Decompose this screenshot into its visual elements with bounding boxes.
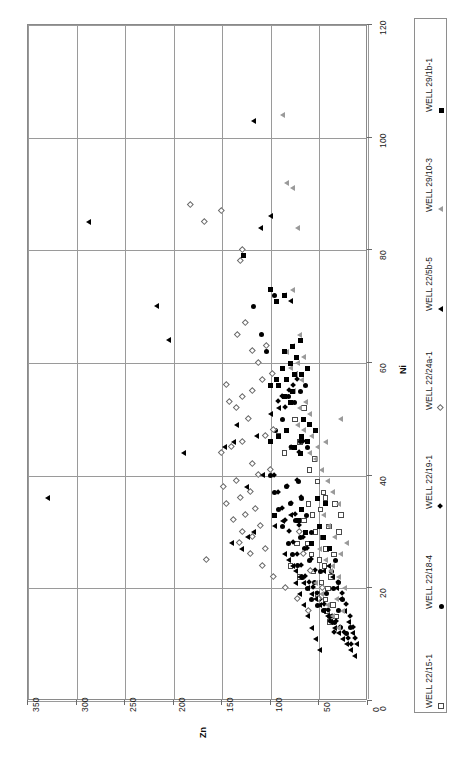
marker-filled-square xyxy=(282,349,287,354)
marker-filled-square xyxy=(299,372,304,377)
zn-tick-label: 300 xyxy=(80,697,90,712)
legend-label: WELL 22/18-4 xyxy=(424,555,434,609)
marker-filled-square xyxy=(288,361,293,366)
plot-area xyxy=(27,24,367,700)
ni-tick-label: 80 xyxy=(378,250,388,260)
ni-tick-label: 20 xyxy=(378,588,388,598)
marker-filled-square xyxy=(282,293,287,298)
zn-tick-label: 200 xyxy=(177,697,187,712)
legend-marker-open-triangle xyxy=(437,206,446,215)
legend-label: WELL 29/10-3 xyxy=(424,158,434,212)
marker-filled-square xyxy=(315,496,320,501)
marker-filled-square xyxy=(284,377,289,382)
marker-filled-square xyxy=(305,439,310,444)
marker-filled-square xyxy=(299,434,304,439)
marker-filled-square xyxy=(323,501,328,506)
ni-axis-title: Ni xyxy=(398,365,408,374)
legend-label: WELL 22/15-1 xyxy=(424,654,434,708)
zn-tick xyxy=(27,700,28,705)
ni-tick-label: 120 xyxy=(378,20,388,35)
scatter-chart: 350300250200150100500020406080100120 Zn … xyxy=(0,0,460,772)
marker-filled-square xyxy=(268,287,273,292)
zn-tick xyxy=(318,700,319,705)
legend-item-well-22-15-1[interactable]: WELL 22/15-1 xyxy=(415,615,448,714)
marker-open-diamond xyxy=(437,404,443,410)
marker-filled-square xyxy=(274,377,279,382)
marker-filled-square xyxy=(298,338,303,343)
marker-filled-square xyxy=(292,372,297,377)
ni-tick xyxy=(367,362,372,363)
marker-filled-square xyxy=(327,546,332,551)
marker-open-triangle xyxy=(438,206,443,212)
ni-tick xyxy=(367,700,372,701)
legend-item-well-29-10-3[interactable]: WELL 29/10-3 xyxy=(415,118,448,217)
legend-label: WELL 22/24a-1 xyxy=(424,351,434,410)
zn-tick-label: 100 xyxy=(274,697,284,712)
marker-filled-square xyxy=(280,366,285,371)
marker-filled-square xyxy=(309,541,314,546)
gridline-ni xyxy=(28,701,366,702)
marker-filled-square xyxy=(268,383,273,388)
ni-tick xyxy=(367,587,372,588)
zn-tick-label: 50 xyxy=(322,702,332,712)
ni-tick-label: 60 xyxy=(378,363,388,373)
marker-filled-square xyxy=(317,524,322,529)
legend-marker-open-square xyxy=(437,702,446,711)
series-well-29-1b-1 xyxy=(28,25,366,699)
marker-filled-square xyxy=(288,400,293,405)
legend-marker-open-diamond xyxy=(437,404,446,413)
marker-filled-square xyxy=(439,108,444,113)
ni-tick xyxy=(367,137,372,138)
ni-tick-label: 100 xyxy=(378,133,388,148)
marker-filled-square xyxy=(282,394,287,399)
marker-filled-square xyxy=(298,451,303,456)
zn-axis-title: Zn xyxy=(198,727,208,738)
marker-filled-square xyxy=(276,383,281,388)
marker-filled-square xyxy=(301,417,306,422)
legend-label: WELL 22/19-1 xyxy=(424,455,434,509)
marker-filled-square xyxy=(305,366,310,371)
legend-item-well-22-18-4[interactable]: WELL 22/18-4 xyxy=(415,515,448,614)
marker-filled-circle xyxy=(439,604,444,609)
marker-filled-square xyxy=(307,422,312,427)
legend-marker-filled-diamond xyxy=(437,503,446,512)
zn-tick xyxy=(270,700,271,705)
marker-filled-square xyxy=(292,445,297,450)
zn-tick xyxy=(221,700,222,705)
marker-filled-square xyxy=(268,439,273,444)
marker-filled-square xyxy=(241,253,246,258)
marker-filled-square xyxy=(290,389,295,394)
marker-filled-square xyxy=(296,518,301,523)
legend-box: WELL 22/15-1WELL 22/18-4WELL 22/19-1WELL… xyxy=(414,18,447,713)
legend-marker-filled-square xyxy=(437,106,446,115)
legend-item-well-22-19-1[interactable]: WELL 22/19-1 xyxy=(415,416,448,515)
marker-filled-square xyxy=(284,428,289,433)
marker-filled-square xyxy=(321,535,326,540)
ni-tick-label: 0 xyxy=(378,706,388,711)
marker-filled-square xyxy=(294,355,299,360)
zn-tick xyxy=(76,700,77,705)
marker-filled-square xyxy=(290,344,295,349)
zn-tick-label: 350 xyxy=(31,697,41,712)
legend-item-well-29-1b-1[interactable]: WELL 29/1b-1 xyxy=(415,19,448,118)
legend-marker-filled-triangle xyxy=(437,305,446,314)
legend-item-well-22-5b-5[interactable]: WELL 22/5b-5 xyxy=(415,218,448,317)
legend-item-well-22-24a-1[interactable]: WELL 22/24a-1 xyxy=(415,317,448,416)
ni-tick xyxy=(367,475,372,476)
marker-filled-triangle xyxy=(438,306,443,312)
marker-filled-square xyxy=(303,530,308,535)
marker-filled-square xyxy=(299,507,304,512)
ni-tick-label: 40 xyxy=(378,476,388,486)
zn-tick-label: 250 xyxy=(128,697,138,712)
zn-tick xyxy=(124,700,125,705)
zn-tick-label: 150 xyxy=(225,697,235,712)
legend-label: WELL 22/5b-5 xyxy=(424,257,434,311)
marker-filled-square xyxy=(276,434,281,439)
legend-marker-filled-circle xyxy=(437,603,446,612)
marker-filled-square xyxy=(272,513,277,518)
marker-open-square xyxy=(438,703,444,709)
legend-label: WELL 29/1b-1 xyxy=(424,58,434,112)
marker-filled-square xyxy=(274,299,279,304)
zn-tick xyxy=(173,700,174,705)
ni-tick xyxy=(367,249,372,250)
